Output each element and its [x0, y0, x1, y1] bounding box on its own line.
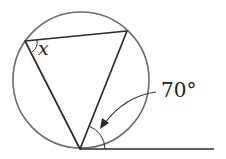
angle-label-70: 70° — [161, 80, 196, 100]
angle-label-x: x — [38, 39, 49, 58]
geometry-diagram: x 70° — [0, 0, 226, 159]
pointer-arrow-line — [104, 92, 156, 124]
circumscribed-circle — [13, 12, 149, 148]
angle-arc-x — [32, 40, 37, 52]
